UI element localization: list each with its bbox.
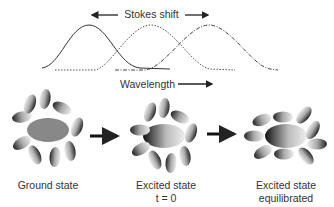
excited-t0-sublabel: t = 0 xyxy=(118,192,214,204)
wavelength-label: Wavelength xyxy=(120,78,175,90)
diagram-canvas xyxy=(0,0,334,207)
absorption-curve xyxy=(42,25,170,69)
emission-initial-curve xyxy=(55,25,235,70)
excited-eq-sublabel: equilibrated xyxy=(238,192,334,204)
excited-t0-label: Excited state xyxy=(118,179,214,191)
excited-t0-molecule xyxy=(130,97,200,173)
stokes-shift-label: Stokes shift xyxy=(118,8,185,20)
emission-equilibrated-curve xyxy=(115,25,278,70)
excited-equilibrated-molecule xyxy=(244,104,327,167)
excited-eq-label: Excited state xyxy=(238,179,334,191)
spectra-curves xyxy=(42,25,278,70)
ground-state-label: Ground state xyxy=(0,179,96,191)
ground-state-molecule xyxy=(11,88,86,167)
